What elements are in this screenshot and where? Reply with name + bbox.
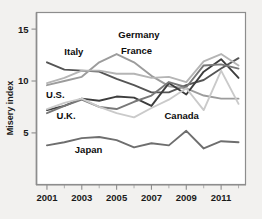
y-tick-label: 15 xyxy=(18,24,29,35)
annotation-canada: Canada xyxy=(165,110,200,121)
x-tick-label: 2009 xyxy=(176,192,197,203)
misery-index-chart: 51015 200120032005200720092011 GermanyIt… xyxy=(0,0,262,219)
annotation-japan: Japan xyxy=(75,144,103,155)
y-axis-title: Misery index xyxy=(5,81,15,136)
x-tick-label: 2011 xyxy=(211,192,232,203)
x-tick-label: 2003 xyxy=(71,192,92,203)
x-tick-label: 2005 xyxy=(106,192,128,203)
y-tick-label: 5 xyxy=(23,127,29,138)
x-tick-label: 2007 xyxy=(141,192,162,203)
annotation-france: France xyxy=(121,45,152,56)
annotation-germany: Germany xyxy=(118,29,160,40)
chart-canvas: 51015 200120032005200720092011 GermanyIt… xyxy=(0,0,262,219)
annotation-us: U.S. xyxy=(46,89,64,100)
x-tick-label: 2001 xyxy=(36,192,58,203)
annotation-uk: U.K. xyxy=(57,110,76,121)
y-tick-label: 10 xyxy=(18,75,29,86)
annotation-italy: Italy xyxy=(64,46,84,57)
